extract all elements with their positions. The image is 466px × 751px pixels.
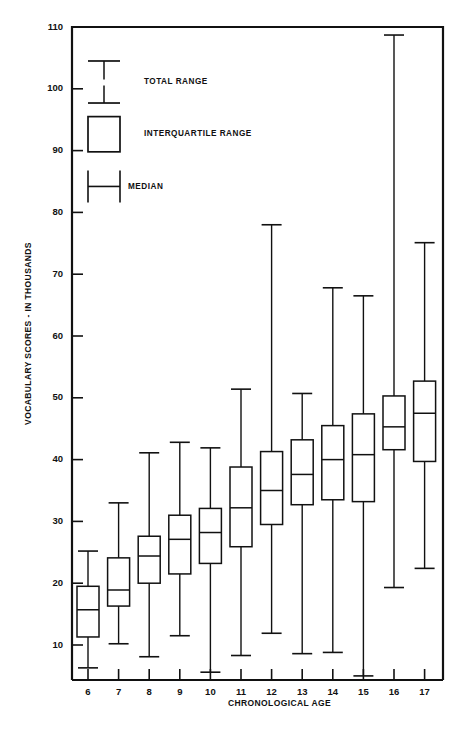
interquartile-box <box>322 426 344 500</box>
y-tick-label: 90 <box>52 144 63 155</box>
y-tick-label: 60 <box>52 330 63 341</box>
x-tick-label: 11 <box>236 686 247 697</box>
box-plot-10[interactable] <box>199 448 221 672</box>
box-plot-17[interactable] <box>414 243 436 569</box>
box-plot-6[interactable] <box>77 551 99 668</box>
interquartile-box <box>414 381 436 461</box>
y-tick-label: 110 <box>48 21 63 32</box>
x-tick-label: 12 <box>266 686 277 697</box>
x-tick-label: 13 <box>297 686 308 697</box>
legend-label-median: MEDIAN <box>128 182 163 191</box>
y-tick-label: 20 <box>52 577 63 588</box>
box-plot-11[interactable] <box>230 389 252 655</box>
y-tick-label: 100 <box>47 82 63 93</box>
x-tick-label: 6 <box>85 686 90 697</box>
y-tick-label: 80 <box>52 206 63 217</box>
box-plot-12[interactable] <box>261 225 283 633</box>
interquartile-box <box>383 396 405 450</box>
interquartile-box <box>291 440 313 505</box>
box-plot-13[interactable] <box>291 393 313 653</box>
interquartile-box <box>108 558 130 606</box>
interquartile-box <box>352 414 374 502</box>
y-tick-label: 70 <box>52 268 63 279</box>
legend-interquartile-box <box>88 117 120 152</box>
interquartile-box <box>169 515 191 574</box>
legend: TOTAL RANGEINTERQUARTILE RANGEMEDIAN <box>88 61 252 203</box>
x-tick-label: 17 <box>419 686 430 697</box>
x-tick-label: 9 <box>177 686 182 697</box>
legend-label-interquartile-range: INTERQUARTILE RANGE <box>144 129 252 138</box>
x-tick-label: 7 <box>116 686 121 697</box>
x-axis-title: CHRONOLOGICAL AGE <box>228 698 331 708</box>
interquartile-box <box>138 536 160 583</box>
box-plot-14[interactable] <box>322 288 344 653</box>
box-plot-8[interactable] <box>138 453 160 657</box>
y-tick-label: 40 <box>52 453 63 464</box>
legend-label-total-range: TOTAL RANGE <box>144 77 208 86</box>
box-plot-16[interactable] <box>383 35 405 587</box>
chart-canvas: 1020304050607080901001106789101112131415… <box>0 0 466 751</box>
interquartile-box <box>230 467 252 547</box>
box-plot-15[interactable] <box>352 296 374 676</box>
interquartile-box <box>77 586 99 637</box>
x-tick-label: 10 <box>205 686 216 697</box>
x-tick-label: 8 <box>147 686 152 697</box>
y-tick-label: 30 <box>52 515 63 526</box>
y-tick-label: 10 <box>52 639 63 650</box>
x-tick-label: 15 <box>358 686 369 697</box>
x-tick-label: 14 <box>328 686 339 697</box>
plot-frame <box>72 27 443 680</box>
box-plot-9[interactable] <box>169 442 191 635</box>
y-axis-title: VOCABULARY SCORES - IN THOUSANDS <box>23 242 33 425</box>
box-plot-chart: 1020304050607080901001106789101112131415… <box>0 0 466 751</box>
x-tick-label: 16 <box>389 686 400 697</box>
y-tick-label: 50 <box>52 391 63 402</box>
interquartile-box <box>261 452 283 525</box>
interquartile-box <box>199 508 221 563</box>
box-plot-7[interactable] <box>108 503 130 644</box>
